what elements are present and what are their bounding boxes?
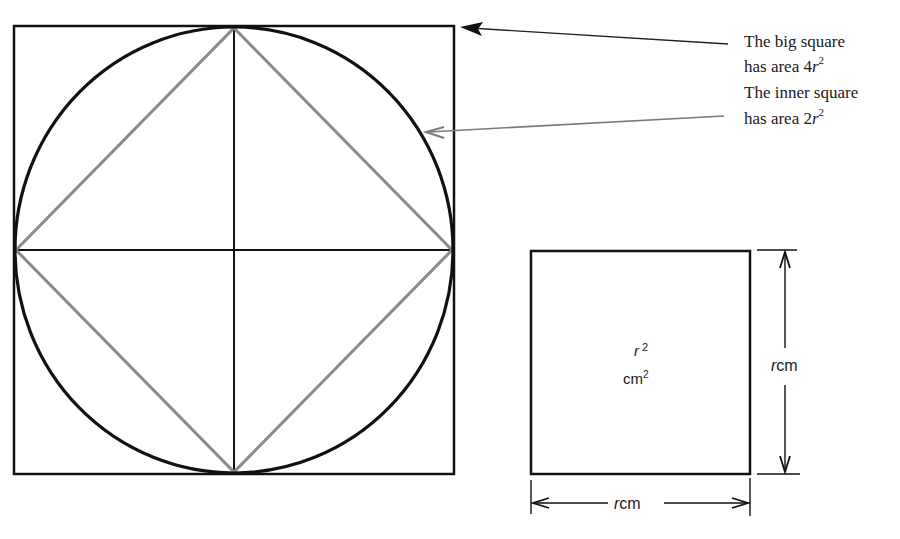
svg-text:The inner square: The inner square (744, 83, 858, 102)
big-square-annotation: The big square has area 4r2 (744, 32, 845, 76)
svg-text:cm2: cm2 (623, 369, 649, 387)
svg-text:rcm: rcm (771, 357, 798, 374)
svg-text:rcm: rcm (614, 495, 641, 512)
height-dimension: rcm (757, 250, 800, 474)
small-square (531, 251, 750, 474)
svg-text:has area 4r2: has area 4r2 (744, 54, 824, 76)
svg-text:The big square: The big square (744, 32, 845, 51)
width-dimension: rcm (531, 478, 750, 516)
diagram-canvas: The big square has area 4r2 The inner sq… (0, 0, 900, 539)
svg-text:has area 2r2: has area 2r2 (744, 106, 824, 128)
inner-square-annotation: The inner square has area 2r2 (744, 83, 858, 128)
svg-text:r2: r2 (634, 341, 648, 359)
small-square-area-label: r2 cm2 (623, 341, 649, 387)
big-square-arrow (460, 22, 728, 44)
inner-square-arrow (426, 116, 724, 138)
